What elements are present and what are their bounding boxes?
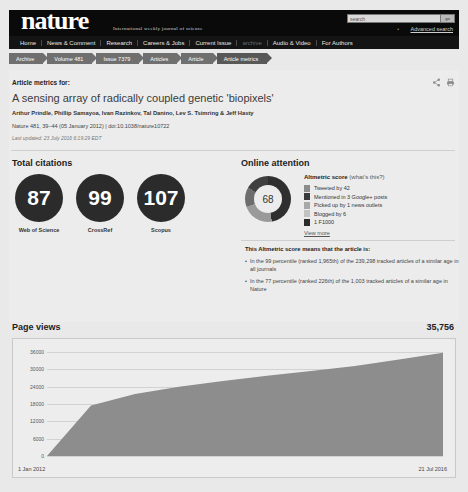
- whats-this-link[interactable]: (what's this?): [349, 174, 384, 180]
- primary-nav[interactable]: Home News & Comment Research Careers & J…: [9, 36, 459, 49]
- y-tick-label: 36000: [30, 349, 44, 355]
- nav-item-careers-jobs[interactable]: Careers & Jobs: [138, 40, 190, 46]
- x-axis-start-label: 1 Jan 2012: [18, 466, 45, 472]
- breadcrumb-item-issue[interactable]: Issue 7379: [96, 53, 139, 64]
- page-views-chart: 36000 30000 24000 18000 12000 6000 0 1 J…: [12, 338, 456, 478]
- page-views-heading: Page views: [12, 322, 61, 332]
- citation-circles: 87 Web of Science 99 CrossRef 107 Scopus: [13, 174, 187, 233]
- site-masthead: nature International weekly journal of s…: [9, 10, 459, 36]
- nature-logo[interactable]: nature: [21, 6, 88, 36]
- breadcrumb-item-volume[interactable]: Volume 481: [47, 53, 92, 64]
- page-views-area-series: [47, 352, 443, 456]
- altmetric-score-label: Altmetric score (what's this?): [304, 174, 385, 180]
- legend-label: Mentioned in 3 Google+ posts: [314, 194, 387, 200]
- nav-item-audio-video[interactable]: Audio & Video: [268, 40, 317, 46]
- article-metrics-panel: Article metrics for: A sensing array of …: [9, 70, 459, 322]
- citation-count: 99: [76, 174, 124, 222]
- percentile-nature: • In the 77 percentile (ranked 226th) of…: [245, 277, 460, 293]
- chart-plot-area: 36000 30000 24000 18000 12000 6000 0: [47, 352, 443, 456]
- altmetric-legend: Tweeted by 42 Mentioned in 3 Google+ pos…: [304, 184, 387, 227]
- legend-label: Picked up by 1 news outlets: [314, 202, 382, 208]
- legend-label: 1 F1000: [314, 219, 334, 225]
- altmetric-score-text: Altmetric score: [304, 174, 348, 180]
- total-citations-heading: Total citations: [12, 158, 72, 168]
- y-tick-label: 30000: [30, 366, 44, 372]
- citation-count: 107: [137, 174, 185, 222]
- legend-item-news: Picked up by 1 news outlets: [304, 201, 387, 210]
- citation-item-web-of-science[interactable]: 87 Web of Science: [13, 174, 65, 233]
- nav-item-home[interactable]: Home: [15, 40, 42, 46]
- nav-item-archive[interactable]: archive: [237, 40, 267, 46]
- altmetric-percentiles: • In the 99 percentile (ranked 1,965th) …: [245, 257, 460, 297]
- breadcrumb-item-article-metrics: Article metrics: [217, 53, 268, 64]
- article-authors[interactable]: Arthur Prindle, Phillip Samayoa, Ivan Ra…: [12, 110, 254, 116]
- citation-count: 87: [15, 174, 63, 222]
- legend-item-f1000: 1 F1000: [304, 218, 387, 227]
- citation-source-label: CrossRef: [74, 227, 126, 233]
- site-tagline: International weekly journal of science: [113, 26, 203, 31]
- altmetric-score-value: 68: [254, 185, 282, 213]
- article-title: A sensing array of radically coupled gen…: [12, 92, 274, 104]
- percentile-all-journals: • In the 99 percentile (ranked 1,965th) …: [245, 257, 460, 273]
- citation-source-label: Web of Science: [13, 227, 65, 233]
- legend-swatch-icon: [304, 202, 310, 209]
- legend-item-tweets: Tweeted by 42: [304, 184, 387, 193]
- search-form[interactable]: search go: [347, 14, 455, 23]
- article-metrics-label: Article metrics for:: [12, 79, 70, 86]
- print-icon[interactable]: [446, 78, 455, 87]
- share-icon[interactable]: [432, 78, 441, 87]
- citation-item-crossref[interactable]: 99 CrossRef: [74, 174, 126, 233]
- breadcrumb-item-articles[interactable]: Articles: [143, 53, 177, 64]
- bullet-icon: •: [245, 257, 247, 273]
- citation-item-scopus[interactable]: 107 Scopus: [135, 174, 187, 233]
- legend-item-google-plus: Mentioned in 3 Google+ posts: [304, 193, 387, 202]
- legend-label: Blogged by 6: [314, 211, 346, 217]
- divider: [241, 240, 455, 241]
- altmetric-donut[interactable]: 68: [245, 176, 291, 222]
- online-attention-heading: Online attention: [241, 158, 310, 168]
- nav-item-for-authors[interactable]: For Authors: [317, 40, 358, 46]
- percentile-text: In the 77 percentile (ranked 226th) of t…: [250, 277, 460, 293]
- gridline: 0: [47, 456, 443, 457]
- x-axis-end-label: 21 Jul 2016: [419, 466, 447, 472]
- percentile-text: In the 99 percentile (ranked 1,965th) of…: [250, 257, 460, 273]
- legend-item-blogs: Blogged by 6: [304, 210, 387, 219]
- y-tick-label: 0: [41, 453, 44, 459]
- search-go-button[interactable]: go: [441, 14, 455, 23]
- legend-swatch-icon: [304, 193, 310, 200]
- breadcrumb-item-archive[interactable]: Archive: [9, 53, 43, 64]
- nav-item-research[interactable]: Research: [101, 40, 138, 46]
- view-more-link[interactable]: View more: [304, 230, 330, 236]
- y-tick-label: 12000: [30, 418, 44, 424]
- article-metrics-page: nature International weekly journal of s…: [0, 0, 468, 492]
- legend-swatch-icon: [304, 219, 310, 226]
- citation-source-label: Scopus: [135, 227, 187, 233]
- advanced-search-bullet-icon: •: [397, 26, 399, 32]
- legend-label: Tweeted by 42: [314, 185, 350, 191]
- article-citation: Nature 481, 39–44 (05 January 2012) | do…: [12, 123, 169, 129]
- advanced-search-link[interactable]: Advanced search: [411, 26, 454, 32]
- altmetric-meaning-heading: This Altmetric score means that the arti…: [245, 246, 370, 252]
- page-views-total: 35,756: [426, 322, 454, 332]
- action-icons[interactable]: [432, 78, 455, 87]
- divider: [11, 150, 455, 151]
- y-tick-label: 24000: [30, 384, 44, 390]
- last-updated: Last updated: 23 July 2016 6:19:29 EDT: [12, 135, 102, 141]
- nav-item-news-comment[interactable]: News & Comment: [42, 40, 101, 46]
- legend-swatch-icon: [304, 210, 310, 217]
- search-input[interactable]: search: [347, 14, 441, 23]
- nav-item-current-issue[interactable]: Current Issue: [190, 40, 237, 46]
- y-tick-label: 18000: [30, 401, 44, 407]
- breadcrumb-item-article[interactable]: Article: [181, 53, 212, 64]
- bullet-icon: •: [245, 277, 247, 293]
- legend-swatch-icon: [304, 185, 310, 192]
- breadcrumb[interactable]: Archive Volume 481 Issue 7379 Articles A…: [9, 52, 271, 65]
- y-tick-label: 6000: [33, 436, 44, 442]
